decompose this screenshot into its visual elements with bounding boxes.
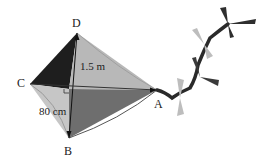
kite-panel-ba bbox=[69, 89, 157, 138]
kite-panel-cd bbox=[30, 33, 77, 89]
tail-bow-1 bbox=[177, 78, 184, 116]
vertex-label-d: D bbox=[72, 17, 81, 29]
vertex-label-a: A bbox=[154, 98, 163, 110]
kite-tail-ribbon bbox=[157, 24, 228, 98]
kite-diagram bbox=[0, 0, 268, 165]
measurement-lower: 80 cm bbox=[39, 106, 66, 117]
vertex-label-b: B bbox=[64, 145, 72, 157]
vertex-label-c: C bbox=[17, 77, 25, 89]
tail-bow-4 bbox=[220, 7, 256, 38]
measurement-upper: 1.5 m bbox=[80, 61, 105, 72]
